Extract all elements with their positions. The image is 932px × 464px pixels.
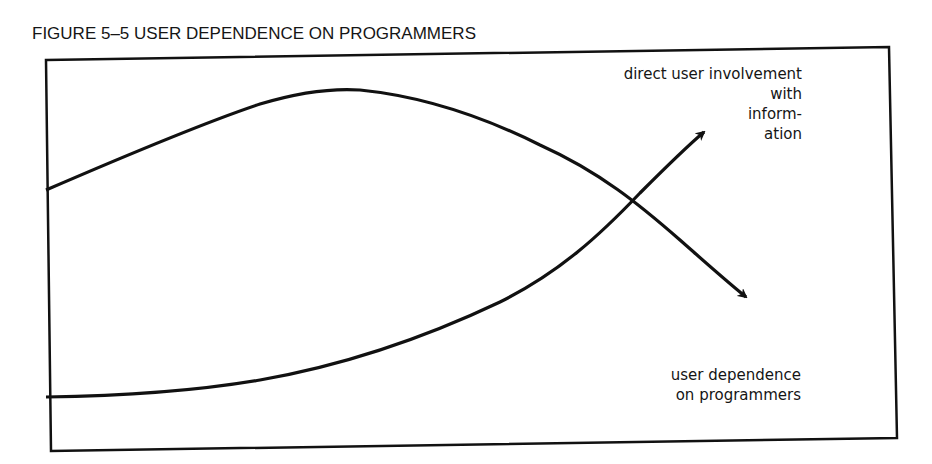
label-line: inform-	[624, 104, 802, 124]
label-line: user dependence	[671, 365, 801, 385]
label-line: direct user involvement	[624, 64, 802, 84]
label-user-dependence: user dependence on programmers	[671, 365, 801, 405]
label-line: with	[624, 84, 802, 104]
label-line: on programmers	[671, 385, 801, 405]
curve-direct-involvement	[46, 132, 704, 397]
label-direct-user-involvement: direct user involvement with inform- ati…	[624, 64, 802, 144]
label-line: ation	[624, 124, 802, 144]
